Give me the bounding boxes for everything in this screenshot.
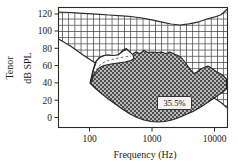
x-axis-title: Frequency (Hz) [113,149,176,161]
plot-interior [58,7,228,128]
y-axis-title: dB SPL [22,52,33,83]
percent-label-text: 35.5% [164,98,186,108]
y-tick-label-100: 100 [38,26,53,36]
x-tick-label-10000: 10000 [203,134,227,144]
y-axis-group-title: Tenor [4,56,15,80]
y-tick-label-0: 0 [47,113,52,123]
y-axis-ticks [55,14,59,118]
percent-coverage-annotation: 35.5% [158,97,192,110]
y-tick-label-80: 80 [43,44,53,54]
x-axis-tick-labels: 100 1000 10000 [82,134,226,144]
y-tick-label-20: 20 [43,96,53,106]
y-axis-tick-labels: 120 100 80 60 40 20 0 [38,9,53,123]
x-tick-label-1000: 1000 [143,134,162,144]
y-tick-label-40: 40 [43,78,53,88]
voice-range-profile-figure: 35.5% 120 100 80 60 40 20 0 [0,0,238,164]
x-axis-ticks [90,128,215,132]
y-tick-label-60: 60 [43,61,53,71]
x-tick-label-100: 100 [82,134,97,144]
y-tick-label-120: 120 [38,9,53,19]
voice-range-profile-chart: 35.5% 120 100 80 60 40 20 0 [0,0,238,164]
